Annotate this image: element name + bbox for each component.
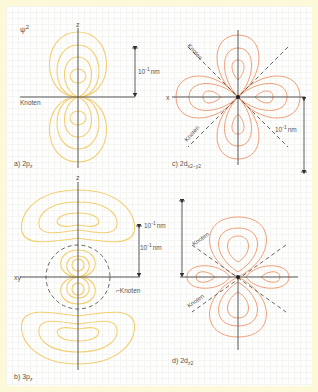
panel-3pz: z xy ⌐Knoten 10-1nm b) 3pz [14,174,162,382]
orbital-diagram: z ψ2 Knoten 10-1nm a) 2pz [0,0,318,392]
panel-2dz2: 10-1nm Knoten Knoten d) 2dz2 [144,201,298,366]
axis-label-z: z [76,174,80,181]
node-label: ⌐Knoten [116,287,141,294]
caption-dx2y2: c) 2dx2−y2 [172,160,201,169]
node-label-lower: Knoten [186,293,205,309]
node-label: Knoten [20,99,41,106]
panel-2dx2y2: x Knoten Knoten 10-1nm c) 2dx2−y2 [166,30,307,172]
caption-2pz: a) 2pz [14,160,33,169]
nucleus-dot [236,275,240,279]
axis-label-xy: xy [14,274,22,282]
scale-label: 10-1nm [144,220,166,229]
caption-3pz: b) 3pz [14,373,33,382]
scale-label: 10-1nm [140,242,162,251]
psi-squared-title: ψ2 [20,24,30,34]
axis-label-x: x [166,94,170,101]
caption-dz2: d) 2dz2 [172,357,193,366]
node-label-upper: Knoten [186,43,203,61]
scale-label: 10-1nm [138,66,160,75]
axis-label-z: z [76,21,80,28]
panel-2pz: z ψ2 Knoten 10-1nm a) 2pz [14,21,160,169]
node-label-upper: Knoten [191,231,210,247]
node-label-lower: Knoten [183,125,200,143]
scale-label: 10-1nm [275,124,297,133]
nucleus-dot [236,95,240,99]
